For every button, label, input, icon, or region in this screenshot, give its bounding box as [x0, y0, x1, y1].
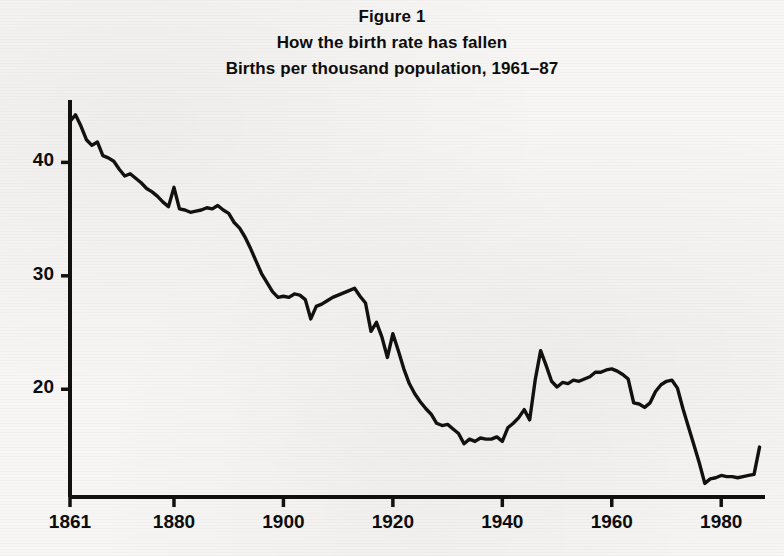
x-tick-label: 1960: [552, 511, 672, 533]
y-tick-label: 20: [0, 376, 54, 398]
x-tick-label: 1940: [442, 511, 562, 533]
y-tick-label: 30: [0, 263, 54, 285]
figure-birth-rate: Figure 1 How the birth rate has fallen B…: [0, 0, 784, 556]
chart-canvas: [0, 0, 784, 556]
x-tick-label: 1920: [333, 511, 453, 533]
x-tick-label: 1900: [223, 511, 343, 533]
birth-rate-line: [70, 115, 760, 484]
x-tick-label: 1861: [10, 511, 130, 533]
x-tick-label: 1980: [661, 511, 781, 533]
y-tick-label: 40: [0, 149, 54, 171]
x-tick-label: 1880: [114, 511, 234, 533]
